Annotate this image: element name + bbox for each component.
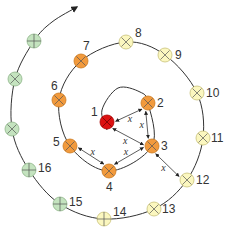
node-11: 11 <box>196 131 224 145</box>
node-label: 13 <box>162 202 176 216</box>
node-label: 5 <box>53 135 60 149</box>
distance-label: x <box>139 119 145 130</box>
node-label: 7 <box>83 39 90 53</box>
node-17 <box>5 122 19 136</box>
node-8: 8 <box>119 26 142 49</box>
node-14: 14 <box>97 205 127 226</box>
distance-arrow <box>146 111 149 138</box>
node-label: 3 <box>161 139 168 153</box>
node-12: 12 <box>180 173 210 187</box>
node-18 <box>8 72 22 86</box>
distance-label: x <box>123 146 129 157</box>
node-label: 11 <box>211 131 224 145</box>
distance-label: x <box>90 146 96 157</box>
distance-arrow <box>113 128 144 144</box>
node-16: 16 <box>22 161 52 177</box>
node-label: 16 <box>38 161 52 175</box>
node-13: 13 <box>147 202 176 216</box>
node-9: 9 <box>158 48 182 62</box>
node-3: 3 <box>145 139 168 153</box>
spiral-nodes: 12345678910111213141516 <box>5 26 224 226</box>
distance-arrow <box>156 154 180 177</box>
distance-arrow <box>114 147 143 164</box>
node-label: 14 <box>113 205 127 219</box>
node-label: 15 <box>69 195 83 209</box>
node-10: 10 <box>190 86 220 100</box>
node-label: 4 <box>106 180 113 194</box>
node-2: 2 <box>141 96 164 110</box>
distance-label: x <box>122 135 128 146</box>
node-label: 12 <box>196 173 210 187</box>
distance-label: x <box>127 113 133 124</box>
node-19 <box>27 34 41 48</box>
node-label: 9 <box>175 48 182 62</box>
node-7: 7 <box>74 39 90 68</box>
node-label: 10 <box>206 86 220 100</box>
distance-label: x <box>160 162 166 173</box>
spiral-diagram: xxxxxx 12345678910111213141516 <box>0 0 230 228</box>
node-label: 1 <box>91 105 98 119</box>
node-label: 6 <box>51 79 58 93</box>
node-label: 2 <box>157 96 164 110</box>
node-4: 4 <box>102 164 116 194</box>
node-label: 8 <box>135 26 142 40</box>
